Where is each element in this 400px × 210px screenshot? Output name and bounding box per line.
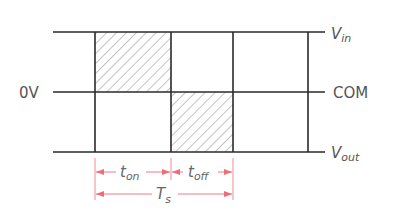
vin-label: Vin [331,25,351,45]
toff-label: toff [188,163,210,183]
zero-volt-label: 0V [19,84,40,102]
com-label: COM [333,84,368,102]
ton-label: ton [120,163,140,183]
on-interval-hatch [95,32,171,92]
ts-label: Ts [156,185,171,206]
vout-label: Vout [331,144,360,164]
timing-diagram: Vin 0V COM Vout ton toff Ts [0,0,400,210]
off-interval-hatch [171,92,233,152]
